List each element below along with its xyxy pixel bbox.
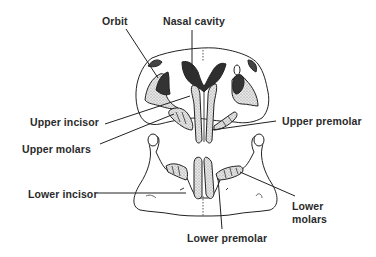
label-upper-premolar: Upper premolar [282,115,362,127]
label-lower-premolar: Lower premolar [187,232,267,244]
leader-upper-molars [100,114,174,144]
lower-jaw [134,134,277,216]
lower-incisor-right [204,157,214,198]
lower-incisor-left [194,157,202,199]
label-nasal-cavity: Nasal cavity [163,15,225,27]
label-upper-incisor: Upper incisor [30,116,99,128]
upper-skull [136,48,269,143]
label-orbit: Orbit [102,15,128,27]
label-lower-incisor: Lower incisor [28,188,98,200]
skull-diagram: Orbit Nasal cavity Upper incisor Upper m… [0,0,376,257]
label-upper-molars: Upper molars [22,143,91,155]
label-lower-molars: Lower molars [292,200,327,226]
